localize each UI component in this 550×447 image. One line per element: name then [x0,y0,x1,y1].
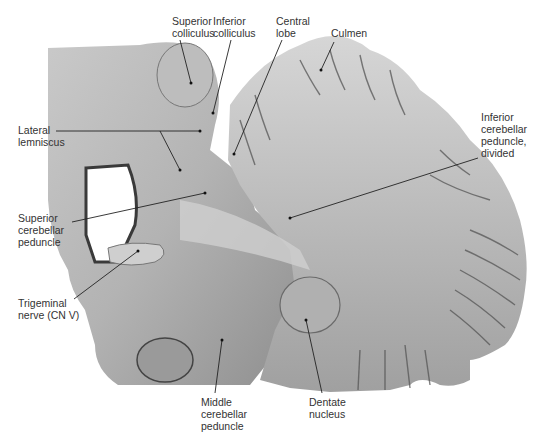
label-central-lobe: Central lobe [276,15,310,39]
label-trigeminal-nerve: Trigeminal nerve (CN V) [18,297,79,321]
label-inferior-cerebellar-peduncle: Inferior cerebellar peduncle, divided [481,111,527,159]
label-dentate-nucleus: Dentate nucleus [309,396,346,420]
label-lateral-lemniscus: Lateral lemniscus [18,124,65,148]
label-middle-cerebellar-peduncle: Middle cerebellar peduncle [201,396,247,432]
brainstem-specimen [48,36,528,392]
label-culmen: Culmen [331,27,367,39]
label-superior-cerebellar-peduncle: Superior cerebellar peduncle [18,212,64,248]
anatomy-figure [0,0,550,447]
label-inferior-colliculus: Inferior colliculus [213,15,256,39]
label-superior-colliculus: Superior colliculus [172,15,215,39]
